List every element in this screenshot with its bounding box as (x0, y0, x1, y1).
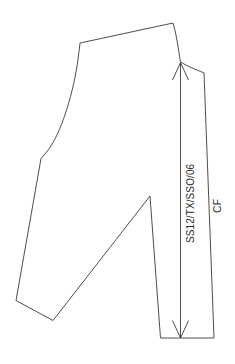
center-front-label: CF (211, 199, 223, 213)
pattern-drawing-canvas: SS12/TX/SSO/06 CF (0, 0, 235, 364)
pattern-outline-drawing (0, 0, 235, 364)
style-code-label: SS12/TX/SSO/06 (185, 164, 196, 243)
